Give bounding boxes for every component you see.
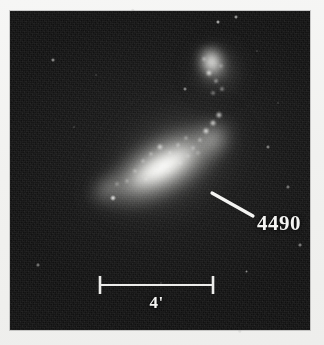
figure-page: 4490 4'	[0, 0, 324, 345]
astronomical-plate: 4490 4'	[10, 11, 310, 330]
sky-background	[10, 11, 310, 330]
